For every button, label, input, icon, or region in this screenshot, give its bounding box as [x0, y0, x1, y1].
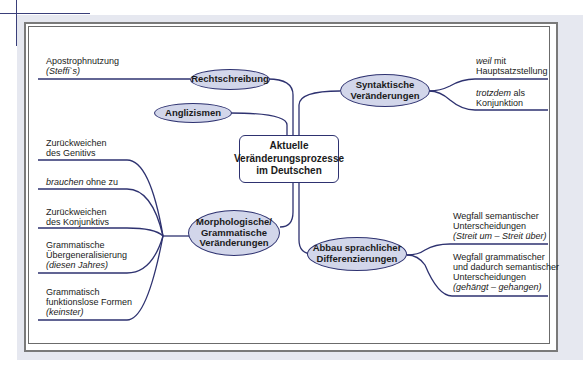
center-line-3: im Deutschen	[234, 165, 344, 178]
node-label-line: Differenzierungen	[313, 254, 402, 265]
leaf-example: (gehängt – gehangen)	[453, 282, 559, 292]
leaf-italic: trotzdem	[476, 88, 511, 98]
leaf-wegfall-grammatisch: Wegfall grammatischer und dadurch semant…	[453, 252, 559, 292]
center-line-2: Veränderungsprozesse	[234, 153, 344, 166]
leaf-text: Übergeneralisierung	[46, 250, 127, 260]
node-label-line: Veränderungen	[350, 91, 419, 102]
node-morphologische: Morphologische/ Grammatische Veränderung…	[188, 210, 280, 256]
leaf-italic: brauchen	[46, 177, 84, 187]
leaf-wegfall-semantisch: Wegfall semantischer Unterscheidungen (S…	[453, 211, 547, 241]
leaf-text: des Konjunktivs	[46, 217, 109, 227]
leaf-brauchen: brauchen ohne zu	[46, 177, 118, 187]
leaf-apostrophnutzung: Apostrophnutzung (Steffi`s)	[46, 56, 119, 76]
node-syntaktische: Syntaktische Veränderungen	[340, 74, 430, 107]
center-line-1: Aktuelle	[234, 140, 344, 153]
leaf-text: Hauptsatzstellung	[476, 66, 548, 76]
leaf-text: mit	[492, 56, 507, 66]
leaf-text: Unterscheidungen	[453, 221, 547, 231]
leaf-text: des Genitivs	[46, 148, 107, 158]
leaf-text: Grammatisch	[46, 287, 132, 297]
node-label: Anglizismen	[165, 108, 221, 119]
node-abbau: Abbau sprachlicher Differenzierungen	[307, 237, 407, 271]
leaf-weil: weil mit Hauptsatzstellung	[476, 56, 548, 76]
leaf-text: und dadurch semantischer	[453, 262, 559, 272]
node-label-line: Veränderungen	[196, 238, 272, 249]
leaf-uebergeneralisierung: Grammatische Übergeneralisierung (diesen…	[46, 240, 127, 270]
leaf-text: Grammatische	[46, 240, 127, 250]
leaf-text: Wegfall semantischer	[453, 211, 547, 221]
leaf-text: Zurückweichen	[46, 138, 107, 148]
leaf-genitiv: Zurückweichen des Genitivs	[46, 138, 107, 158]
leaf-example: (diesen Jahres)	[46, 260, 127, 270]
node-label-line: Syntaktische	[350, 80, 419, 91]
center-node: Aktuelle Veränderungsprozesse im Deutsch…	[239, 135, 339, 183]
node-label: Rechtschreibung	[191, 74, 269, 85]
node-rechtschreibung: Rechtschreibung	[190, 69, 270, 90]
leaf-text: Apostrophnutzung	[46, 56, 119, 66]
leaf-text: als	[511, 88, 525, 98]
leaf-text: ohne zu	[84, 177, 119, 187]
leaf-konjunktiv: Zurückweichen des Konjunktivs	[46, 207, 109, 227]
leaf-text: Wegfall grammatischer	[453, 252, 559, 262]
leaf-trotzdem: trotzdem als Konjunktion	[476, 88, 525, 108]
leaf-example: (Steffi`s)	[46, 66, 119, 76]
node-label-line: Morphologische/	[196, 217, 272, 228]
leaf-text: Zurückweichen	[46, 207, 109, 217]
leaf-example: (keinster)	[46, 307, 132, 317]
node-anglizismen: Anglizismen	[154, 103, 232, 123]
leaf-text: funktionslose Formen	[46, 297, 132, 307]
leaf-example: (Streit um – Streit über)	[453, 231, 547, 241]
leaf-funktionslose-formen: Grammatisch funktionslose Formen (keinst…	[46, 287, 132, 317]
leaf-text: Unterscheidungen	[453, 272, 559, 282]
leaf-italic: weil	[476, 56, 492, 66]
leaf-text: Konjunktion	[476, 98, 525, 108]
